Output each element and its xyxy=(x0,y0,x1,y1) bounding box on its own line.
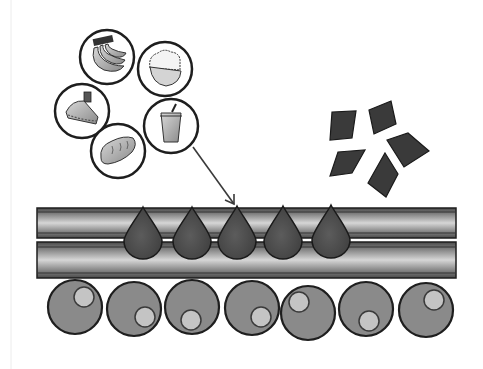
cell-body xyxy=(225,281,279,335)
diagram-canvas: Glucose absorption from food into the bl… xyxy=(0,0,483,369)
cell-nucleus xyxy=(181,310,201,330)
cell-icon xyxy=(339,282,393,336)
food-items-group xyxy=(55,30,198,178)
crystal-5-icon xyxy=(368,153,398,197)
crystal-4-icon xyxy=(330,150,365,176)
diagram-svg xyxy=(0,0,483,369)
cell-icon xyxy=(165,280,219,334)
arrow-icon xyxy=(193,147,234,204)
bananas-icon xyxy=(80,30,134,84)
cell-body xyxy=(281,286,335,340)
cell-nucleus xyxy=(289,292,309,312)
cell-icon xyxy=(281,286,335,340)
cells-group xyxy=(48,280,453,340)
cell-body xyxy=(399,283,453,337)
cell-icon xyxy=(107,282,161,336)
cell-body xyxy=(107,282,161,336)
cell-icon xyxy=(48,280,102,334)
crystal-1-icon xyxy=(330,111,356,140)
crystals-group xyxy=(330,101,429,197)
rice-bowl-icon xyxy=(138,42,192,96)
cell-body xyxy=(48,280,102,334)
cell-icon xyxy=(399,283,453,337)
drink-cup-icon xyxy=(144,99,198,153)
cell-nucleus xyxy=(74,287,94,307)
cell-nucleus xyxy=(424,290,444,310)
crystal-3-icon xyxy=(387,133,429,167)
bread-loaf-icon xyxy=(91,124,145,178)
cell-nucleus xyxy=(135,307,155,327)
cell-icon xyxy=(225,281,279,335)
cell-nucleus xyxy=(359,311,379,331)
crystal-2-icon xyxy=(369,101,396,134)
cell-nucleus xyxy=(251,307,271,327)
